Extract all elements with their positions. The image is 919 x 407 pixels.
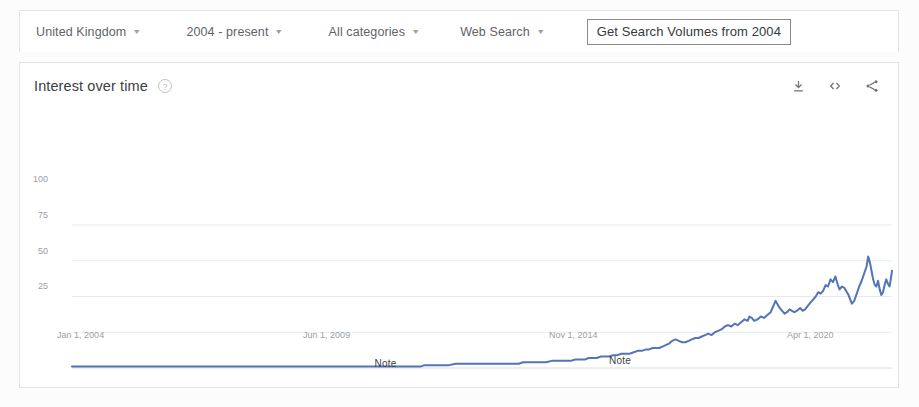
region-selector-label: United Kingdom: [36, 25, 126, 39]
note-annotation[interactable]: Note: [609, 355, 631, 366]
y-axis-tick-label: 25: [24, 281, 48, 291]
page-background: United Kingdom ▾ 2004 - present ▾ All ca…: [0, 0, 919, 407]
category-selector-label: All categories: [329, 25, 405, 39]
card-actions: [791, 78, 880, 94]
chevron-down-icon: ▾: [277, 28, 283, 36]
region-selector[interactable]: United Kingdom ▾: [36, 25, 139, 39]
get-search-volumes-button[interactable]: Get Search Volumes from 2004: [587, 19, 791, 45]
time-range-selector[interactable]: 2004 - present ▾: [186, 25, 281, 39]
search-type-selector-label: Web Search: [460, 25, 530, 39]
embed-code-icon[interactable]: [827, 78, 843, 94]
y-axis-tick-label: 75: [24, 210, 48, 220]
interest-over-time-chart[interactable]: 100755025 Jan 1, 2004Jun 1, 2009Nov 1, 2…: [20, 109, 898, 387]
x-axis-tick-label: Nov 1, 2014: [549, 330, 598, 340]
y-axis-tick-label: 50: [24, 246, 48, 256]
download-icon[interactable]: [791, 79, 806, 94]
chevron-down-icon: ▾: [538, 28, 544, 36]
filters-toolbar: United Kingdom ▾ 2004 - present ▾ All ca…: [19, 10, 899, 52]
share-icon[interactable]: [864, 78, 880, 94]
y-axis-tick-label: 100: [24, 174, 48, 184]
help-icon[interactable]: ?: [158, 79, 172, 93]
x-axis-tick-label: Jun 1, 2009: [303, 330, 350, 340]
chart-canvas: [20, 109, 898, 388]
chevron-down-icon: ▾: [413, 28, 419, 36]
x-axis-tick-label: Apr 1, 2020: [787, 330, 834, 340]
search-type-selector[interactable]: Web Search ▾: [460, 25, 543, 39]
note-annotation[interactable]: Note: [375, 358, 397, 369]
page-title: Interest over time: [34, 78, 148, 94]
time-range-selector-label: 2004 - present: [186, 25, 268, 39]
card-header: Interest over time ?: [20, 63, 898, 109]
interest-over-time-card: Interest over time ?: [19, 62, 899, 388]
category-selector[interactable]: All categories ▾: [329, 25, 419, 39]
x-axis-tick-label: Jan 1, 2004: [57, 330, 104, 340]
chart-line: [72, 256, 892, 366]
chevron-down-icon: ▾: [135, 28, 141, 36]
